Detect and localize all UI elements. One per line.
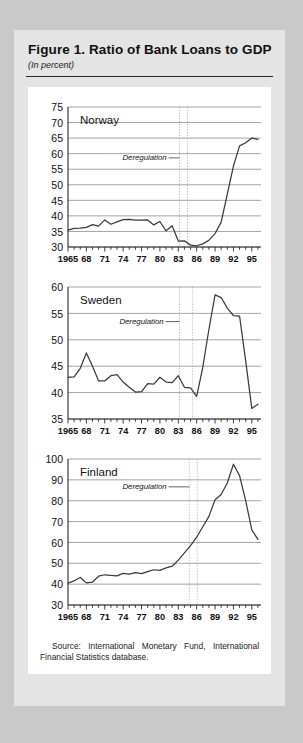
- x-tick-label: 68: [81, 426, 91, 436]
- x-tick-label: 80: [155, 254, 165, 264]
- y-tick-label: 35: [51, 413, 63, 425]
- x-tick-label: 1965: [58, 612, 78, 622]
- deregulation-annotation: Deregulation: [119, 317, 163, 326]
- x-tick-label: 80: [155, 426, 165, 436]
- x-tick-label: 89: [210, 426, 220, 436]
- x-tick-label: 89: [210, 254, 220, 264]
- chart-norway: 3035404550556065707519656871747780838689…: [28, 93, 271, 273]
- y-tick-label: 40: [51, 387, 63, 399]
- x-tick-label: 1965: [58, 426, 78, 436]
- title-divider: [26, 76, 273, 77]
- x-tick-label: 71: [100, 426, 110, 436]
- x-tick-label: 95: [247, 612, 257, 622]
- chart-title: Sweden: [80, 294, 122, 306]
- x-tick-label: 68: [81, 254, 91, 264]
- y-tick-label: 30: [51, 599, 63, 611]
- chart-sweden: 354045505560196568717477808386899295Swed…: [28, 273, 271, 445]
- x-tick-label: 77: [136, 426, 146, 436]
- y-tick-label: 50: [51, 557, 63, 569]
- source-text: Source: International Monetary Fund, Int…: [40, 641, 259, 662]
- x-tick-label: 77: [136, 612, 146, 622]
- series-line: [68, 295, 258, 409]
- y-tick-label: 35: [51, 226, 63, 238]
- x-tick-label: 95: [247, 254, 257, 264]
- chart-svg-norway: 3035404550556065707519656871747780838689…: [28, 93, 271, 273]
- x-tick-label: 1965: [58, 254, 78, 264]
- y-tick-label: 65: [51, 132, 63, 144]
- x-tick-label: 92: [228, 612, 238, 622]
- y-tick-label: 100: [45, 453, 63, 465]
- chart-finland: 3040506070809010019656871747780838689929…: [28, 445, 271, 631]
- deregulation-annotation: Deregulation: [122, 153, 166, 162]
- x-tick-label: 77: [136, 254, 146, 264]
- figure-subtitle: (In percent): [28, 60, 271, 70]
- x-tick-label: 74: [118, 254, 129, 264]
- y-tick-label: 55: [51, 163, 63, 175]
- x-tick-label: 86: [192, 426, 202, 436]
- x-tick-label: 74: [118, 612, 129, 622]
- x-tick-label: 71: [100, 612, 110, 622]
- y-tick-label: 90: [51, 474, 63, 486]
- x-tick-label: 74: [118, 426, 129, 436]
- x-tick-label: 89: [210, 612, 220, 622]
- y-tick-label: 50: [51, 334, 63, 346]
- figure-header: Figure 1. Ratio of Bank Loans to GDP (In…: [14, 30, 285, 70]
- y-tick-label: 40: [51, 210, 63, 222]
- y-tick-label: 70: [51, 516, 63, 528]
- x-tick-label: 86: [192, 612, 202, 622]
- chart-svg-finland: 3040506070809010019656871747780838689929…: [28, 445, 271, 631]
- figure-panel: Figure 1. Ratio of Bank Loans to GDP (In…: [14, 30, 285, 706]
- y-tick-label: 40: [51, 578, 63, 590]
- charts-card: 3035404550556065707519656871747780838689…: [28, 87, 271, 674]
- y-tick-label: 45: [51, 195, 63, 207]
- deregulation-annotation: Deregulation: [122, 482, 166, 491]
- x-tick-label: 83: [173, 426, 183, 436]
- x-tick-label: 83: [173, 254, 183, 264]
- x-tick-label: 83: [173, 612, 183, 622]
- y-tick-label: 75: [51, 101, 63, 113]
- y-tick-label: 60: [51, 537, 63, 549]
- y-tick-label: 55: [51, 308, 63, 320]
- page-title: Figure 1. Ratio of Bank Loans to GDP: [28, 42, 271, 58]
- y-tick-label: 30: [51, 241, 63, 253]
- x-tick-label: 95: [247, 426, 257, 436]
- x-tick-label: 92: [228, 426, 238, 436]
- y-tick-label: 60: [51, 281, 63, 293]
- chart-title: Finland: [80, 466, 118, 478]
- y-tick-label: 50: [51, 179, 63, 191]
- y-tick-label: 80: [51, 495, 63, 507]
- x-tick-label: 68: [81, 612, 91, 622]
- y-tick-label: 70: [51, 117, 63, 129]
- x-tick-label: 86: [192, 254, 202, 264]
- x-tick-label: 80: [155, 612, 165, 622]
- chart-svg-sweden: 354045505560196568717477808386899295Swed…: [28, 273, 271, 445]
- chart-title: Norway: [80, 114, 119, 126]
- x-tick-label: 92: [228, 254, 238, 264]
- y-tick-label: 60: [51, 148, 63, 160]
- source-note: Source: International Monetary Fund, Int…: [28, 631, 271, 674]
- x-tick-label: 71: [100, 254, 110, 264]
- y-tick-label: 45: [51, 360, 63, 372]
